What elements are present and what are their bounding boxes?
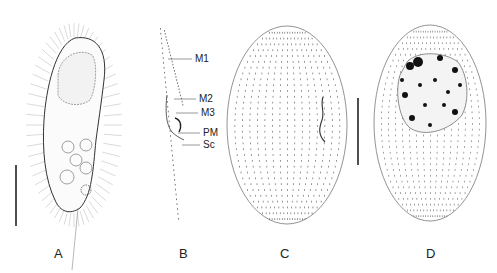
panel-a-drawing bbox=[26, 23, 122, 270]
label-pm: PM bbox=[203, 128, 218, 138]
panel-c-drawing bbox=[227, 26, 347, 224]
label-m1: M1 bbox=[195, 54, 209, 64]
label-m2: M2 bbox=[199, 94, 213, 104]
panel-b-drawing bbox=[160, 28, 200, 220]
panel-label-d: D bbox=[426, 246, 435, 261]
panel-d-drawing bbox=[374, 25, 486, 221]
panel-label-a: A bbox=[54, 246, 63, 261]
panel-label-c: C bbox=[280, 246, 289, 261]
caudal-cilium bbox=[72, 208, 78, 270]
pm-arc bbox=[175, 118, 181, 132]
label-m3: M3 bbox=[201, 108, 215, 118]
figure-illustration bbox=[0, 0, 497, 273]
label-sc: Sc bbox=[203, 140, 215, 150]
panel-label-b: B bbox=[179, 246, 188, 261]
